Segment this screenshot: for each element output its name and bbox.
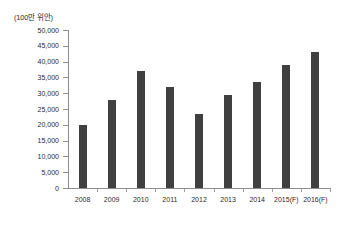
bar bbox=[108, 100, 116, 188]
y-axis-tick-label: 25,000 bbox=[38, 106, 59, 113]
x-axis-tick bbox=[126, 188, 127, 192]
y-axis-tick-label: 5,000 bbox=[41, 169, 59, 176]
bar-chart: (100만 위안) 50,00045,00040,00035,00030,000… bbox=[0, 0, 343, 228]
x-axis-label: 2010 bbox=[133, 196, 149, 204]
x-axis-tick bbox=[97, 188, 98, 192]
y-axis-tick-label: 0 bbox=[55, 185, 59, 192]
x-axis-label: 2015(F) bbox=[274, 196, 299, 204]
bar bbox=[166, 87, 174, 188]
y-axis-tick-label: 40,000 bbox=[38, 58, 59, 65]
y-axis-tick-label: 50,000 bbox=[38, 27, 59, 34]
x-axis-label: 2011 bbox=[162, 196, 177, 204]
x-axis-tick bbox=[272, 188, 273, 192]
y-axis-tick-label: 15,000 bbox=[38, 137, 59, 144]
x-axis-tick bbox=[184, 188, 185, 192]
x-axis-label: 2012 bbox=[191, 196, 207, 204]
y-axis-unit-label: (100만 위안) bbox=[14, 11, 53, 22]
y-axis-tick-label: 35,000 bbox=[38, 74, 59, 81]
x-axis-label: 2013 bbox=[220, 196, 236, 204]
y-axis-tick bbox=[63, 188, 68, 189]
bar bbox=[253, 82, 261, 188]
y-axis-tick-label: 45,000 bbox=[38, 42, 59, 49]
y-axis-tick-label: 20,000 bbox=[38, 121, 59, 128]
x-axis-tick bbox=[214, 188, 215, 192]
x-axis-line bbox=[68, 188, 331, 189]
x-axis-label: 2016(F) bbox=[303, 196, 328, 204]
bar bbox=[224, 95, 232, 188]
y-axis-tick-label: 30,000 bbox=[38, 90, 59, 97]
bar bbox=[311, 52, 319, 188]
plot-area bbox=[68, 30, 330, 188]
bar bbox=[195, 114, 203, 188]
bar bbox=[137, 71, 145, 188]
bar bbox=[282, 65, 290, 188]
y-axis-tick-label: 10,000 bbox=[38, 153, 59, 160]
x-axis-tick bbox=[155, 188, 156, 192]
x-axis-label: 2014 bbox=[249, 196, 265, 204]
x-axis-label: 2008 bbox=[75, 196, 91, 204]
x-axis-tick bbox=[330, 188, 331, 192]
x-axis-tick bbox=[243, 188, 244, 192]
x-axis-label: 2009 bbox=[104, 196, 120, 204]
bar bbox=[79, 125, 87, 188]
x-axis-tick bbox=[301, 188, 302, 192]
